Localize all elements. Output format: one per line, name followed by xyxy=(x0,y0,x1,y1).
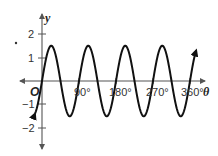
y-tick-label-neg2: −2 xyxy=(22,122,35,134)
stray-dot xyxy=(15,42,17,44)
x-tick-label-90: 90° xyxy=(74,86,91,98)
y-axis-label: y xyxy=(43,11,51,25)
y-tick-label-neg1: −1 xyxy=(22,98,35,110)
y-tick-label-1: 1 xyxy=(28,52,34,64)
origin-label: O xyxy=(30,85,40,99)
x-tick-label-360: 360° xyxy=(181,86,204,98)
x-axis-label: θ xyxy=(203,85,210,99)
y-tick-label-2: 2 xyxy=(28,28,34,40)
x-tick-label-270: 270° xyxy=(146,86,169,98)
x-tick-label-180: 180° xyxy=(109,86,132,98)
sine-graph: 2 1 −1 −2 90° 180° 270° 360° y θ O xyxy=(0,0,218,156)
